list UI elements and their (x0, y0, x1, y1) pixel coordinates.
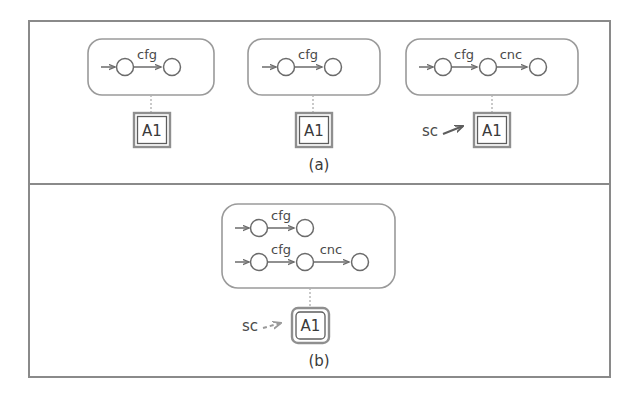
panel-a: cfg A1 cfg (88, 39, 578, 174)
annotation-label-a1: A1 (142, 122, 162, 140)
annotation-a-2: A1 (296, 113, 332, 147)
edge-label-cfg: cfg (271, 242, 291, 257)
panel-caption-b: (b) (308, 352, 329, 370)
annotation-label-a1: A1 (304, 122, 324, 140)
edge-label-cfg: cfg (454, 47, 474, 62)
edge-label-cfg: cfg (298, 47, 318, 62)
node-circle (117, 59, 134, 76)
figure-container: cfg A1 cfg (0, 0, 630, 397)
group-a-3: cfg cnc A1 sc (406, 39, 578, 147)
sc-annotation-a-3: sc (422, 122, 463, 140)
node-circle (251, 254, 268, 271)
node-circle (530, 59, 547, 76)
annotation-label-a1: A1 (482, 122, 502, 140)
group-box-b-1 (222, 204, 395, 288)
edge-label-cfg: cfg (137, 47, 157, 62)
group-a-2: cfg A1 (248, 39, 380, 147)
edge-label-cnc: cnc (320, 242, 343, 257)
annotation-b-1: A1 (292, 308, 329, 343)
edge-label-cnc: cnc (500, 47, 523, 62)
annotation-label-a1: A1 (301, 317, 321, 335)
node-circle (297, 254, 314, 271)
sc-label: sc (422, 122, 438, 140)
node-circle (297, 220, 314, 237)
sc-arrow-solid (443, 126, 463, 134)
sc-label: sc (242, 317, 258, 335)
panel-caption-a: (a) (309, 156, 330, 174)
panel-b: cfg cfg cnc (222, 204, 395, 370)
node-circle (251, 220, 268, 237)
annotation-a-3: A1 (474, 113, 510, 147)
node-circle (164, 59, 181, 76)
annotation-a-1: A1 (134, 113, 170, 147)
sc-arrow-dashed (263, 323, 281, 328)
node-circle (480, 59, 497, 76)
edge-label-cfg: cfg (271, 208, 291, 223)
group-b-1: cfg cfg cnc (222, 204, 395, 343)
sc-annotation-b-1: sc (242, 317, 281, 335)
node-circle (352, 254, 369, 271)
node-circle (435, 59, 452, 76)
figure-diagram: cfg A1 cfg (0, 0, 630, 397)
node-circle (278, 59, 295, 76)
group-a-1: cfg A1 (88, 39, 214, 147)
node-circle (325, 59, 342, 76)
